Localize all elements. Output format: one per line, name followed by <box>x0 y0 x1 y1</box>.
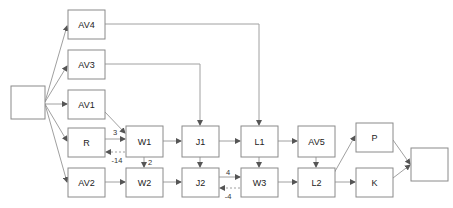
edge-weight-label: 2 <box>148 158 152 167</box>
node-av5[interactable]: AV5 <box>298 126 335 157</box>
node-label: W2 <box>138 178 152 188</box>
node-label: L1 <box>254 137 264 147</box>
edge-weight-label: 4 <box>226 168 230 177</box>
edge-p-to-sink[interactable] <box>393 140 410 164</box>
node-w3[interactable]: W3 <box>241 168 278 197</box>
node-label: W3 <box>253 178 267 188</box>
edge-weight-label: -4 <box>225 192 232 201</box>
edge-weight-label: -14 <box>112 156 123 165</box>
node-label: AV1 <box>78 100 94 110</box>
node-label: J2 <box>196 178 206 188</box>
node-label: P <box>371 133 377 143</box>
edge-weight-label: 3 <box>113 128 117 137</box>
node-av1[interactable]: AV1 <box>68 90 105 119</box>
edge-src-to-av3[interactable] <box>45 66 67 102</box>
edge-av4-to-l1[interactable] <box>105 24 259 125</box>
flow-diagram-canvas: AV4AV3AV1RAV2W1W2J1J2L1W3AV5L2PK 3-1424-… <box>0 0 453 208</box>
edge-src-to-av2[interactable] <box>45 104 67 182</box>
edge-k-to-sink[interactable] <box>393 165 410 178</box>
node-label: R <box>83 138 90 148</box>
node-l1[interactable]: L1 <box>241 126 278 157</box>
node-r[interactable]: R <box>68 128 105 157</box>
node-j2[interactable]: J2 <box>182 168 219 197</box>
node-av3[interactable]: AV3 <box>68 50 105 79</box>
node-label: AV2 <box>78 178 94 188</box>
node-p[interactable]: P <box>356 123 393 152</box>
edge-src-to-av4[interactable] <box>45 26 67 102</box>
edge-av3-to-j1[interactable] <box>105 64 200 125</box>
node-box[interactable] <box>411 148 448 181</box>
node-src[interactable] <box>11 86 45 119</box>
diagram-svg: AV4AV3AV1RAV2W1W2J1J2L1W3AV5L2PK 3-1424-… <box>0 0 453 208</box>
node-l2[interactable]: L2 <box>298 168 335 197</box>
edge-src-to-r[interactable] <box>45 104 67 141</box>
node-box[interactable] <box>11 86 45 119</box>
node-label: AV4 <box>78 20 94 30</box>
node-sink[interactable] <box>411 148 448 181</box>
node-label: AV3 <box>78 60 94 70</box>
node-j1[interactable]: J1 <box>182 126 219 157</box>
node-label: J1 <box>196 137 206 147</box>
node-label: L2 <box>311 178 321 188</box>
node-av4[interactable]: AV4 <box>68 10 105 39</box>
node-w2[interactable]: W2 <box>126 168 163 197</box>
node-k[interactable]: K <box>356 168 393 197</box>
node-av2[interactable]: AV2 <box>68 168 105 197</box>
node-label: AV5 <box>308 137 324 147</box>
node-label: W1 <box>138 137 152 147</box>
node-w1[interactable]: W1 <box>126 126 163 157</box>
node-label: K <box>371 178 377 188</box>
